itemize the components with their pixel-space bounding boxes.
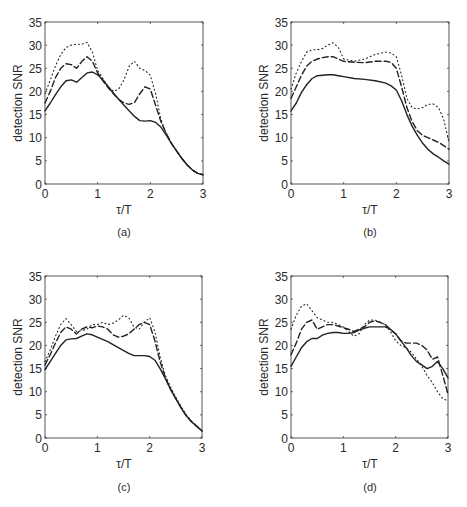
y-tick-label: 0 <box>35 178 42 192</box>
y-tick-label: 30 <box>275 39 289 53</box>
series-dotted-line <box>291 43 449 143</box>
x-tick-label: 0 <box>288 441 295 455</box>
y-tick-label: 20 <box>29 339 43 353</box>
y-tick-label: 35 <box>275 16 289 30</box>
series-dotted-line <box>291 304 448 401</box>
y-tick-label: 0 <box>281 178 288 192</box>
series-dashed-line <box>45 57 203 175</box>
series-solid-line <box>45 72 203 175</box>
y-tick-label: 20 <box>275 339 289 353</box>
y-tick-label: 5 <box>281 408 288 422</box>
series-dashed-line <box>291 57 449 150</box>
y-tick-label: 0 <box>35 432 42 446</box>
figure: detection SNR τ/T (a) 012305101520253035… <box>0 0 467 507</box>
x-tick-label: 1 <box>94 441 101 455</box>
x-tick-label: 1 <box>340 187 347 201</box>
series-dotted-line <box>45 315 202 430</box>
y-tick-label: 10 <box>275 131 289 145</box>
x-tick-label: 0 <box>42 187 49 201</box>
y-axis-label: detection SNR <box>257 318 271 396</box>
y-tick-label: 35 <box>29 270 43 284</box>
y-tick-label: 25 <box>275 62 289 76</box>
x-tick-label: 1 <box>340 441 347 455</box>
panel-label: (a) <box>117 226 130 238</box>
y-tick-label: 10 <box>275 385 289 399</box>
y-tick-label: 5 <box>281 154 288 168</box>
y-tick-label: 35 <box>275 270 289 284</box>
y-tick-label: 30 <box>29 293 43 307</box>
axes-box <box>291 22 449 184</box>
panel-b: detection SNR τ/T (b) 012305101520253035 <box>257 16 453 239</box>
y-tick-label: 5 <box>35 408 42 422</box>
y-tick-label: 10 <box>29 385 43 399</box>
series-solid-line <box>45 334 202 431</box>
y-tick-label: 10 <box>29 131 43 145</box>
series-solid-line <box>291 75 449 164</box>
panel-c: detection SNR τ/T (c) 012305101520253035 <box>11 270 206 494</box>
axes-box <box>45 22 203 184</box>
y-tick-label: 15 <box>275 362 289 376</box>
x-tick-label: 2 <box>147 187 154 201</box>
y-tick-label: 20 <box>275 85 289 99</box>
panel-label: (c) <box>118 481 131 493</box>
panel-d: detection SNR τ/T (d) 012305101520253035 <box>257 270 452 494</box>
x-tick-label: 2 <box>392 441 399 455</box>
y-axis-label: detection SNR <box>257 64 271 142</box>
panel-label: (b) <box>363 226 376 238</box>
panel-label: (d) <box>363 481 376 493</box>
x-axis-label: τ/T <box>116 203 132 217</box>
x-tick-label: 3 <box>445 441 452 455</box>
x-tick-label: 3 <box>200 187 207 201</box>
y-tick-label: 25 <box>29 316 43 330</box>
y-axis-label: detection SNR <box>11 64 25 142</box>
series-dashed-line <box>45 322 202 431</box>
y-tick-label: 30 <box>29 39 43 53</box>
x-axis-label: τ/T <box>116 457 132 471</box>
x-tick-label: 2 <box>146 441 153 455</box>
y-tick-label: 35 <box>29 16 43 30</box>
x-tick-label: 1 <box>94 187 101 201</box>
y-tick-label: 0 <box>281 432 288 446</box>
x-tick-label: 3 <box>199 441 206 455</box>
x-tick-label: 3 <box>446 187 453 201</box>
axes-box <box>291 276 448 438</box>
y-tick-label: 15 <box>29 108 43 122</box>
x-tick-label: 2 <box>393 187 400 201</box>
y-tick-label: 15 <box>29 362 43 376</box>
y-tick-label: 25 <box>29 62 43 76</box>
y-tick-label: 15 <box>275 108 289 122</box>
x-tick-label: 0 <box>288 187 295 201</box>
y-tick-label: 25 <box>275 316 289 330</box>
series-dashed-line <box>291 320 448 394</box>
y-tick-label: 30 <box>275 293 289 307</box>
y-tick-label: 5 <box>35 154 42 168</box>
x-axis-label: τ/T <box>362 203 378 217</box>
axes-box <box>45 276 202 438</box>
y-tick-label: 20 <box>29 85 43 99</box>
y-axis-label: detection SNR <box>11 318 25 396</box>
x-tick-label: 0 <box>42 441 49 455</box>
x-axis-label: τ/T <box>362 457 378 471</box>
panel-a: detection SNR τ/T (a) 012305101520253035 <box>11 16 207 239</box>
